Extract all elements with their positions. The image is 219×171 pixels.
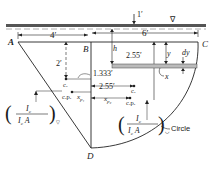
right-centroid-depth-dimension	[152, 42, 156, 100]
svg-text:(: (	[5, 102, 12, 125]
circle-callout-label: Circle	[171, 124, 190, 133]
hydrostatics-diagram: ∇ 1′ 4′ 6′ A B C D h 2.55′	[0, 0, 219, 171]
svg-text:Ic: Ic	[135, 114, 142, 124]
point-b: B	[83, 44, 89, 54]
right-formula: ( Ic Ic A ) ◡	[118, 113, 170, 136]
left-centroid-label: c.	[63, 81, 68, 88]
x-label: x	[164, 72, 169, 81]
xp1-label: xp₁	[76, 93, 85, 102]
svg-text:▽: ▽	[56, 120, 60, 125]
svg-text:Ic: Ic	[25, 104, 32, 114]
svg-text:): )	[158, 113, 165, 136]
x-leader	[159, 68, 164, 76]
h-label: h	[113, 44, 117, 53]
width-right-label: 6′	[142, 28, 149, 38]
xp2-label: xp₂	[103, 95, 112, 104]
svg-text:◡: ◡	[165, 129, 170, 134]
offset-2-label: 2.55′	[99, 82, 115, 91]
left-pressure-center-label: c.p.	[62, 93, 72, 100]
free-surface	[6, 24, 206, 29]
left-formula: ( Ic Ic A ) ▽	[5, 102, 60, 126]
dy-label: dy	[182, 48, 190, 57]
top-depth-label: 1′	[137, 10, 143, 19]
right-centroid-depth-label: 2.55′	[126, 51, 142, 60]
point-a: A	[7, 37, 14, 47]
svg-text:(: (	[118, 113, 125, 136]
y-label: y	[166, 49, 171, 58]
svg-text:Ic A: Ic A	[17, 116, 30, 126]
svg-text:): )	[49, 102, 56, 125]
left-centroid-depth-label: 2′	[56, 59, 62, 68]
top-depth-arrow	[132, 14, 136, 24]
water-surface-symbol: ∇	[169, 15, 176, 24]
point-c: C	[202, 39, 209, 49]
right-formula-leader	[145, 100, 149, 120]
point-d: D	[86, 151, 94, 161]
strip-element	[112, 57, 197, 74]
offset-1-label: 1.333′	[93, 69, 113, 78]
right-pressure-center-label: c.p.	[126, 99, 136, 106]
offset-1-dimension	[66, 74, 91, 79]
width-left-label: 4′	[50, 30, 57, 40]
left-centroid-depth-dimension	[64, 42, 68, 78]
right-centroid-label: c.	[131, 87, 136, 94]
svg-text:Ic A: Ic A	[127, 126, 140, 136]
